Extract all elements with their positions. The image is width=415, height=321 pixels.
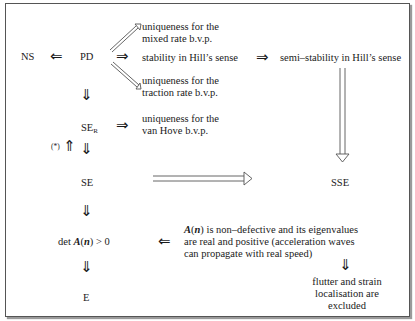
diagonal-up-arrow-icon: [110, 24, 141, 52]
long-down-arrow-icon: [336, 68, 349, 162]
diagonal-down-arrow-icon: [111, 62, 141, 89]
connector-arrows: [0, 0, 415, 321]
long-right-arrow-icon: [153, 172, 252, 185]
